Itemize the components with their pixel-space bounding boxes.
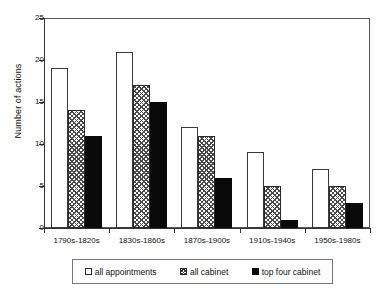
legend-item-label: top four cabinet: [262, 267, 321, 277]
chart-legend: all appointmentsall cabinettop four cabi…: [72, 259, 333, 284]
y-axis-tick-label: 15: [6, 98, 44, 106]
bar: [264, 186, 281, 228]
bar-chart-figure: Number of actions 0510152025 1790s-1820s…: [0, 0, 377, 297]
x-axis-tick: [44, 228, 45, 233]
bar-group: [44, 18, 109, 228]
y-axis-tick-label: 10: [6, 140, 44, 148]
bar: [133, 85, 150, 228]
y-axis-tick-label: 5: [6, 182, 44, 190]
legend-item: all cabinet: [180, 267, 228, 277]
bar: [116, 52, 133, 228]
legend-item: top four cabinet: [252, 267, 321, 277]
bar: [346, 203, 363, 228]
bar: [68, 110, 85, 228]
bar: [181, 127, 198, 228]
bar-group: [305, 18, 370, 228]
bar: [281, 220, 298, 228]
x-axis-tick: [370, 228, 371, 233]
legend-item-label: all appointments: [95, 267, 157, 277]
bar: [51, 68, 68, 228]
x-axis-line: [44, 228, 371, 229]
y-axis: 0510152025: [0, 0, 44, 297]
x-axis-tick: [174, 228, 175, 233]
hatched-square-swatch: [180, 268, 187, 275]
bar-group: [109, 18, 174, 228]
bar: [150, 102, 167, 228]
y-axis-tick-label: 25: [6, 14, 44, 22]
x-axis-tick: [109, 228, 110, 233]
bar-group: [240, 18, 305, 228]
x-axis-tick: [240, 228, 241, 233]
bar: [198, 136, 215, 228]
legend-item: all appointments: [85, 267, 157, 277]
y-axis-tick-label: 0: [6, 224, 44, 232]
legend-item-label: all cabinet: [190, 267, 228, 277]
open-square-swatch: [85, 268, 92, 275]
y-axis-tick-label: 20: [6, 56, 44, 64]
bar: [215, 178, 232, 228]
bar: [329, 186, 346, 228]
bar: [247, 152, 264, 228]
bar: [85, 136, 102, 228]
bar: [312, 169, 329, 228]
filled-square-swatch: [252, 268, 259, 275]
x-axis-tick: [305, 228, 306, 233]
x-axis-tick-label: 1950s-1980s: [297, 236, 377, 245]
bar-group: [174, 18, 239, 228]
